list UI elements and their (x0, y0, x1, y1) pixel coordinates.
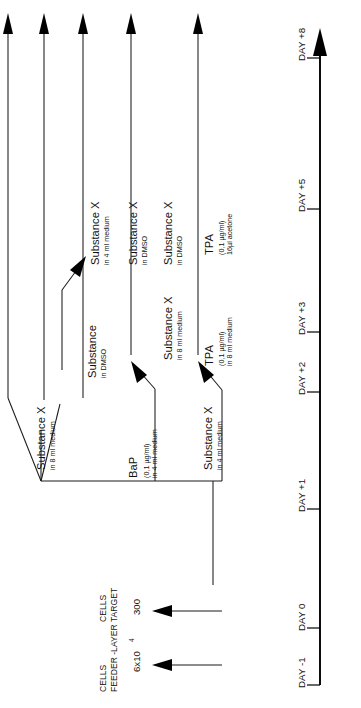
svg-text:in DMSO: in DMSO (99, 348, 108, 378)
label-substance-x-4ml-lower: Substance X in 4 ml medium (202, 406, 224, 470)
svg-text:in 8 ml medium: in 8 ml medium (225, 317, 234, 366)
seeding-arrows (152, 605, 222, 671)
svg-text:TARGET: TARGET (109, 587, 119, 622)
svg-text:Substance X: Substance X (35, 406, 47, 470)
label-tpa-8ml: TPA (0,1 µg/ml) in 8 ml medium (203, 317, 234, 366)
day-axis (307, 28, 327, 685)
svg-text:TPA: TPA (203, 345, 215, 366)
day-tick-label: DAY -1 (296, 657, 307, 688)
treatment-title: Substance X (35, 406, 47, 470)
treatment-title: TPA (203, 345, 215, 366)
svg-text:CELLS: CELLS (98, 595, 108, 622)
day-tick-label: DAY +2 (296, 362, 307, 395)
treatment-sub2: 16µl acetone (225, 214, 234, 255)
svg-text:CELLS: CELLS (98, 665, 108, 692)
treatment-sub2: in 4 ml medium (150, 429, 159, 478)
treatment-sub1: in DMSO (175, 235, 184, 265)
treatment-title: Substance (86, 325, 98, 378)
branch-tpa-acetone (193, 13, 203, 355)
treatment-title: TPA (203, 234, 215, 255)
svg-text:in DMSO: in DMSO (140, 235, 149, 265)
branch-substance-dmso (62, 256, 86, 370)
branch-trunk (41, 469, 222, 585)
svg-text:in 4 ml medium: in 4 ml medium (102, 216, 111, 265)
treatment-sub2: in 8 ml medium (225, 317, 234, 366)
treatment-sub1: in DMSO (140, 235, 149, 265)
treatment-title: Substance X (89, 201, 101, 265)
feeder-count: 6x10 (131, 651, 142, 672)
day-tick-label: DAY +3 (296, 301, 307, 335)
svg-text:16µl acetone: 16µl acetone (225, 214, 234, 255)
svg-text:in 8 ml medium: in 8 ml medium (175, 311, 184, 360)
svg-text:BaP: BaP (127, 457, 139, 478)
day-axis-labels: DAY -1 DAY 0 DAY +1 DAY +2 DAY +3 DAY +5… (296, 27, 307, 688)
svg-text:DAY +3: DAY +3 (296, 301, 307, 335)
svg-text:Substance X: Substance X (202, 406, 214, 470)
treatment-sub1: in 4 ml medium (102, 216, 111, 265)
treatment-title: Substance X (162, 201, 174, 265)
svg-text:Substance: Substance (86, 325, 98, 378)
label-substance-x-8ml: Substance X in 8 ml medium (35, 406, 57, 470)
treatment-title: Substance X (202, 406, 214, 470)
svg-text:DAY 0: DAY 0 (296, 603, 307, 631)
feeder-layer-cells-label: 6x10 4 FEEDER -LAYER CELLS (98, 624, 142, 692)
target-label-line2: CELLS (98, 595, 108, 622)
svg-text:DAY +1: DAY +1 (296, 479, 307, 512)
svg-text:DAY +5: DAY +5 (296, 178, 307, 212)
svg-text:Substance X: Substance X (162, 201, 174, 265)
svg-text:in 4 ml medium: in 4 ml medium (215, 421, 224, 470)
label-bap: BaP (0,1 µg/ml) in 4 ml medium (127, 429, 159, 478)
label-substance-x-dmso-2: Substance X in DMSO (162, 201, 184, 265)
treatment-sub1: in 8 ml medium (48, 421, 57, 470)
svg-text:Substance X: Substance X (89, 201, 101, 265)
treatment-title: Substance X (127, 201, 139, 265)
svg-text:300: 300 (131, 599, 142, 615)
label-substance-x-4ml-upper: Substance X in 4 ml medium (89, 201, 111, 265)
svg-text:4: 4 (128, 638, 135, 642)
svg-text:in 4 ml medium: in 4 ml medium (150, 429, 159, 478)
svg-text:DAY +2: DAY +2 (296, 362, 307, 395)
treatment-title: Substance X (162, 296, 174, 360)
feeder-label-line2: CELLS (98, 665, 108, 692)
svg-text:DAY -1: DAY -1 (296, 657, 307, 688)
svg-text:in 8 ml medium: in 8 ml medium (48, 421, 57, 470)
figure-canvas: 6x10 4 FEEDER -LAYER CELLS 300 TARGET CE… (0, 0, 361, 708)
target-cells-label: 300 TARGET CELLS (98, 587, 142, 622)
treatment-title: BaP (127, 457, 139, 478)
svg-text:Substance X: Substance X (162, 296, 174, 360)
label-substance-dmso: Substance in DMSO (86, 325, 108, 378)
target-count: 300 (131, 599, 142, 615)
feeder-label-line1: FEEDER -LAYER (109, 624, 119, 692)
target-label-line1: TARGET (109, 587, 119, 622)
day-tick-label: DAY +8 (296, 27, 307, 61)
label-substance-x-dmso-1: Substance X in DMSO (127, 201, 149, 265)
svg-text:DAY +8: DAY +8 (296, 27, 307, 61)
treatment-sub1: in 4 ml medium (215, 421, 224, 470)
day-tick-label: DAY +5 (296, 178, 307, 212)
svg-text:6x10: 6x10 (131, 651, 142, 672)
day-tick-label: DAY 0 (296, 603, 307, 631)
svg-text:in DMSO: in DMSO (175, 235, 184, 265)
treatment-sub1: in 8 ml medium (175, 311, 184, 360)
branch-substance-x-8ml-mid (126, 13, 136, 355)
label-tpa-acetone: TPA (0,1 µg/ml) 16µl acetone (203, 214, 234, 255)
svg-text:Substance X: Substance X (127, 201, 139, 265)
feeder-count-exponent: 4 (128, 638, 135, 642)
svg-text:TPA: TPA (203, 234, 215, 255)
day-tick-label: DAY +1 (296, 479, 307, 512)
label-substance-x-8ml-mid: Substance X in 8 ml medium (162, 296, 184, 360)
svg-text:FEEDER -LAYER: FEEDER -LAYER (109, 624, 119, 692)
treatment-sub1: in DMSO (99, 348, 108, 378)
